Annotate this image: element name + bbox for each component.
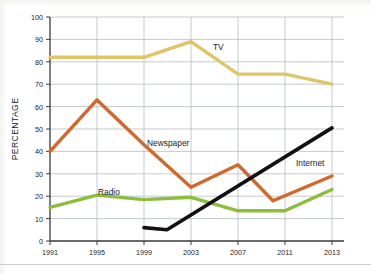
y-tick-label: 20 (35, 192, 43, 201)
x-tick-label: 1995 (89, 248, 105, 257)
series-annotation-internet: Internet (296, 158, 325, 168)
y-tick-label: 70 (35, 80, 43, 89)
x-tick-label: 2013 (324, 248, 340, 257)
y-axis-tick-labels: 100 90 80 70 60 50 40 30 20 10 0 (31, 13, 43, 246)
x-tick-label: 1991 (42, 248, 58, 257)
series-annotation-tv: TV (213, 42, 224, 52)
y-tick-label: 90 (35, 35, 43, 44)
line-chart: 100 90 80 70 60 50 40 30 20 10 0 1991 19… (0, 0, 371, 274)
x-axis-tick-labels: 1991 1995 1999 2003 2007 2011 2013 (42, 248, 340, 257)
y-tick-label: 30 (35, 170, 43, 179)
y-axis-title: PERCENTAGE (10, 98, 20, 161)
x-tick-label: 1999 (136, 248, 152, 257)
y-tick-label: 0 (39, 237, 43, 246)
y-tick-label: 100 (31, 13, 43, 22)
x-tick-label: 2011 (277, 248, 292, 257)
y-tick-label: 80 (35, 58, 43, 67)
chart-page: 100 90 80 70 60 50 40 30 20 10 0 1991 19… (0, 0, 371, 274)
series-annotation-radio: Radio (98, 187, 120, 197)
x-tick-label: 2003 (183, 248, 199, 257)
series-annotation-newspaper: Newspaper (147, 138, 190, 148)
y-tick-label: 40 (35, 147, 43, 156)
y-tick-label: 50 (35, 125, 43, 134)
y-tick-label: 10 (35, 215, 43, 224)
x-tick-label: 2007 (230, 248, 246, 257)
y-tick-label: 60 (35, 103, 43, 112)
